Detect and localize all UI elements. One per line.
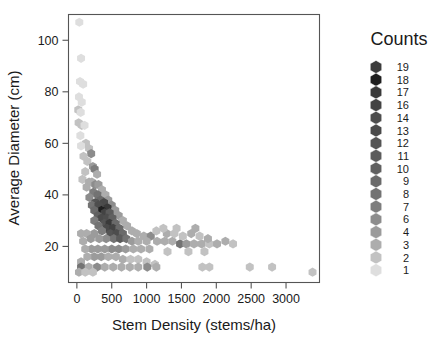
legend-label: 18 [397,74,409,86]
legend-label: 7 [403,201,409,213]
legend-title: Counts [370,29,427,49]
x-tick-label: 3000 [272,292,300,306]
legend-label: 11 [398,150,409,162]
legend-label: 10 [397,163,409,175]
legend-label: 8 [403,188,409,200]
legend-label: 1 [403,264,409,276]
y-tick-label: 40 [45,188,59,202]
legend-label: 12 [397,137,409,149]
x-tick-label: 0 [73,292,80,306]
x-axis-title: Stem Density (stems/ha) [112,316,276,333]
y-axis-title: Average Diameter (cm) [5,71,22,226]
legend-label: 14 [397,112,409,124]
legend-label: 19 [397,61,409,73]
x-tick-label: 1500 [168,292,196,306]
legend-label: 13 [397,125,409,137]
x-tick-label: 1000 [133,292,161,306]
y-tick-label: 20 [45,240,59,254]
y-tick-label: 80 [45,85,59,99]
y-tick-label: 100 [38,34,59,48]
legend-label: 6 [403,213,409,225]
x-tick-label: 500 [101,292,122,306]
chart-canvas: 050010001500200025003000 20406080100 Ste… [0,0,445,347]
legend-label: 3 [403,239,409,251]
legend-label: 17 [397,86,409,98]
legend-label: 16 [397,99,409,111]
hexbin-chart-figure: 050010001500200025003000 20406080100 Ste… [0,0,445,347]
x-tick-label: 2500 [237,292,265,306]
legend-label: 4 [403,226,409,238]
y-tick-label: 60 [45,137,59,151]
x-tick-label: 2000 [202,292,230,306]
legend-label: 2 [403,252,409,264]
legend-label: 9 [403,175,409,187]
